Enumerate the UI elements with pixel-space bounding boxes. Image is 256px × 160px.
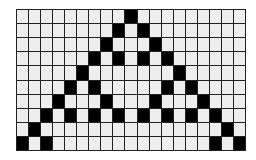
cell-filled: [138, 24, 149, 37]
cell-empty: [77, 123, 88, 136]
cell-empty: [198, 81, 209, 94]
cell-empty: [29, 109, 40, 122]
cell-empty: [222, 52, 233, 65]
cell-empty: [186, 137, 197, 150]
cell-empty: [65, 123, 76, 136]
cell-filled: [89, 52, 100, 65]
cell-empty: [162, 123, 173, 136]
cell-filled: [113, 52, 124, 65]
cell-empty: [89, 123, 100, 136]
cell-empty: [101, 123, 112, 136]
cell-empty: [222, 137, 233, 150]
cell-filled: [101, 95, 112, 108]
cell-empty: [89, 66, 100, 79]
cell-empty: [17, 95, 28, 108]
cell-empty: [174, 81, 185, 94]
cell-empty: [138, 38, 149, 51]
cell-filled: [125, 10, 136, 23]
cell-empty: [101, 109, 112, 122]
cell-empty: [77, 24, 88, 37]
cell-empty: [125, 123, 136, 136]
cell-filled: [186, 109, 197, 122]
cell-empty: [29, 95, 40, 108]
cell-filled: [65, 81, 76, 94]
cell-empty: [65, 52, 76, 65]
cell-empty: [101, 66, 112, 79]
cell-empty: [222, 81, 233, 94]
cell-empty: [53, 24, 64, 37]
cell-filled: [162, 52, 173, 65]
cell-filled: [162, 81, 173, 94]
cell-empty: [198, 137, 209, 150]
cell-empty: [234, 81, 245, 94]
cell-empty: [174, 123, 185, 136]
cell-empty: [29, 24, 40, 37]
cell-empty: [113, 95, 124, 108]
cell-empty: [29, 52, 40, 65]
cell-filled: [210, 137, 221, 150]
cell-empty: [17, 109, 28, 122]
cell-empty: [125, 95, 136, 108]
cell-filled: [89, 81, 100, 94]
cell-empty: [17, 66, 28, 79]
cell-empty: [222, 95, 233, 108]
cell-filled: [174, 66, 185, 79]
cell-empty: [101, 24, 112, 37]
cell-empty: [17, 38, 28, 51]
cell-filled: [65, 109, 76, 122]
cell-filled: [150, 38, 161, 51]
cell-empty: [198, 38, 209, 51]
cell-empty: [150, 123, 161, 136]
cell-empty: [210, 66, 221, 79]
cell-filled: [17, 137, 28, 150]
cell-filled: [113, 109, 124, 122]
cell-empty: [65, 137, 76, 150]
cell-empty: [53, 52, 64, 65]
cell-empty: [17, 123, 28, 136]
cell-empty: [210, 81, 221, 94]
cell-empty: [138, 123, 149, 136]
cell-empty: [198, 123, 209, 136]
cell-empty: [77, 10, 88, 23]
cell-empty: [222, 10, 233, 23]
cell-empty: [41, 38, 52, 51]
cell-empty: [101, 137, 112, 150]
cell-empty: [162, 95, 173, 108]
cell-filled: [101, 38, 112, 51]
cell-empty: [186, 66, 197, 79]
cell-empty: [113, 66, 124, 79]
cell-filled: [53, 95, 64, 108]
cell-empty: [125, 66, 136, 79]
cell-empty: [113, 38, 124, 51]
cell-filled: [234, 137, 245, 150]
cell-empty: [65, 66, 76, 79]
cell-filled: [186, 81, 197, 94]
cell-empty: [65, 38, 76, 51]
cell-empty: [210, 38, 221, 51]
cell-empty: [89, 38, 100, 51]
cell-empty: [174, 109, 185, 122]
cell-empty: [101, 81, 112, 94]
cell-empty: [222, 109, 233, 122]
cell-filled: [29, 123, 40, 136]
cell-empty: [150, 52, 161, 65]
cell-empty: [89, 137, 100, 150]
cell-empty: [186, 10, 197, 23]
cell-filled: [138, 52, 149, 65]
cell-empty: [77, 137, 88, 150]
cell-empty: [113, 81, 124, 94]
cell-empty: [162, 10, 173, 23]
cell-empty: [53, 81, 64, 94]
cell-empty: [101, 10, 112, 23]
cell-empty: [17, 81, 28, 94]
cell-empty: [198, 10, 209, 23]
cell-empty: [89, 95, 100, 108]
cell-filled: [210, 109, 221, 122]
cell-empty: [53, 137, 64, 150]
cell-empty: [198, 52, 209, 65]
cell-empty: [77, 81, 88, 94]
cell-empty: [150, 81, 161, 94]
cell-empty: [29, 137, 40, 150]
cell-empty: [65, 24, 76, 37]
cell-filled: [41, 109, 52, 122]
